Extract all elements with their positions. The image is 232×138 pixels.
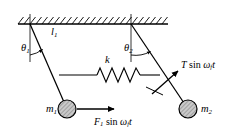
- angle-arc-theta2: [131, 52, 151, 56]
- mass-bob-2: [179, 100, 197, 118]
- label-length-1: l1: [51, 27, 57, 38]
- label-force-f1: F1 sin ωft: [94, 117, 132, 127]
- mass-2-symbol: m: [201, 103, 209, 114]
- pendulum-rod-1: [30, 24, 67, 109]
- mass-2-subscript: 2: [209, 108, 212, 115]
- tension-time-symbol: t: [212, 59, 215, 70]
- ceiling-support: [18, 17, 168, 24]
- mass-1-symbol: m: [46, 103, 54, 114]
- pendulum-rod-2: [131, 24, 188, 109]
- mass-bob-1: [58, 100, 76, 118]
- coupling-spring: [59, 68, 160, 82]
- theta-2-subscript: 2: [129, 47, 132, 54]
- theta-1-subscript: 1: [26, 47, 29, 54]
- tension-sin-text: sin: [187, 59, 204, 70]
- label-mass-2: m2: [201, 104, 212, 115]
- label-theta-2: θ2: [124, 43, 133, 54]
- angle-arc-theta1: [30, 50, 43, 56]
- force-time-symbol: t: [129, 116, 132, 127]
- label-mass-1: m1: [46, 104, 57, 115]
- label-spring-constant: k: [105, 55, 110, 66]
- label-theta-1: θ1: [21, 43, 30, 54]
- pendulum-figure: θ1 θ2 l1 k m1 m2 F1 sin ωft T sin ωft: [0, 0, 232, 138]
- spring-constant-symbol: k: [105, 54, 110, 65]
- ceiling-hatching: [18, 17, 168, 24]
- tension-tick-mark: [146, 87, 163, 95]
- label-tension: T sin ωft: [181, 60, 215, 70]
- mass-1-subscript: 1: [54, 108, 57, 115]
- force-sin-text: sin: [103, 116, 120, 127]
- length-1-subscript: 1: [54, 31, 57, 38]
